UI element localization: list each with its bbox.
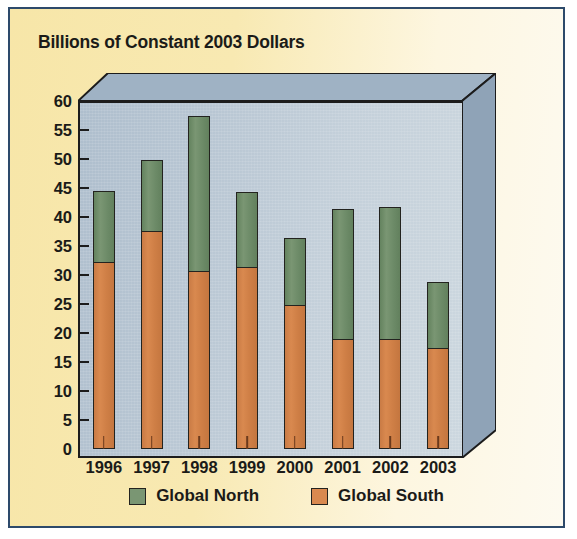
y-axis-tick-label: 30 xyxy=(30,266,72,285)
y-axis-tick-label: 20 xyxy=(30,324,72,343)
y-axis-tick-label: 50 xyxy=(30,150,72,169)
green-swatch-icon xyxy=(129,488,146,505)
bar-segment-global-south xyxy=(236,266,258,449)
y-axis-tick-label: 60 xyxy=(30,92,72,111)
y-axis-tick-label: 5 xyxy=(30,411,72,430)
bar-segment-global-south xyxy=(427,348,449,449)
y-axis-tick-mark xyxy=(80,419,89,421)
bar-segment-global-north xyxy=(427,282,449,350)
y-axis-tick-label: 10 xyxy=(30,382,72,401)
chart-figure: Billions of Constant 2003 Dollars 051015… xyxy=(8,7,565,528)
bar-base-notch xyxy=(342,436,344,449)
bar-segment-global-north xyxy=(332,209,354,340)
orange-swatch-icon xyxy=(311,488,328,505)
legend-label: Global South xyxy=(338,486,444,506)
y-axis-tick-label: 25 xyxy=(30,295,72,314)
y-axis-tick-mark xyxy=(80,245,89,247)
legend-label: Global North xyxy=(156,486,259,506)
bar-segment-global-north xyxy=(93,191,115,263)
bar-base-notch xyxy=(294,436,296,449)
bar-segment-global-south xyxy=(188,271,210,449)
bar-column xyxy=(141,160,163,449)
y-axis-tick-label: 35 xyxy=(30,237,72,256)
y-axis-tick-mark xyxy=(80,187,89,189)
bar-base-notch xyxy=(246,436,248,449)
y-axis-tick-mark xyxy=(80,332,89,334)
chart-panel: Billions of Constant 2003 Dollars 051015… xyxy=(10,9,563,526)
bar-segment-global-south xyxy=(284,305,306,449)
bar-segment-global-south xyxy=(332,339,354,449)
y-axis-tick-mark xyxy=(80,274,89,276)
y-axis-tick-mark xyxy=(80,158,89,160)
bar-column xyxy=(332,209,354,449)
bar-segment-global-south xyxy=(93,262,115,449)
chart-title: Billions of Constant 2003 Dollars xyxy=(38,32,305,53)
y-axis-tick-label: 55 xyxy=(30,121,72,140)
bar-segment-global-north xyxy=(188,116,210,273)
x-axis-tick-label: 2003 xyxy=(410,458,466,477)
bar-base-notch xyxy=(103,436,105,449)
y-axis-tick-mark xyxy=(80,216,89,218)
bar-column xyxy=(188,116,210,450)
bar-base-notch xyxy=(151,436,153,449)
y-axis-tick-mark xyxy=(80,129,89,131)
bar-base-notch xyxy=(390,436,392,449)
y-axis-tick-label: 15 xyxy=(30,353,72,372)
bar-column xyxy=(93,191,115,449)
bar-segment-global-north xyxy=(141,160,163,232)
y-axis-tick-mark xyxy=(80,361,89,363)
y-axis-tick-mark xyxy=(80,303,89,305)
legend-item[interactable]: Global North xyxy=(129,486,259,506)
bar-column xyxy=(379,207,401,449)
bar-segment-global-south xyxy=(141,230,163,449)
x-axis-labels: 19961997199819992000200120022003 xyxy=(80,458,462,484)
legend-item[interactable]: Global South xyxy=(311,486,444,506)
y-axis-tick-mark xyxy=(80,390,89,392)
y-axis-tick-label: 40 xyxy=(30,208,72,227)
y-axis-labels: 051015202530354045505560 xyxy=(26,73,72,458)
bar-base-notch xyxy=(199,436,201,449)
chart-legend: Global NorthGlobal South xyxy=(10,486,563,506)
y-axis-tick-label: 45 xyxy=(30,179,72,198)
bar-column xyxy=(427,282,449,449)
y-axis-ticks xyxy=(80,73,92,458)
bar-segment-global-north xyxy=(236,192,258,268)
bar-column xyxy=(236,192,258,449)
bar-base-notch xyxy=(437,436,439,449)
bar-segment-global-north xyxy=(379,207,401,341)
bar-segment-global-north xyxy=(284,238,306,306)
y-axis-tick-label: 0 xyxy=(30,440,72,459)
bar-series-group xyxy=(80,101,462,449)
bar-segment-global-south xyxy=(379,339,401,449)
bar-column xyxy=(284,238,306,449)
